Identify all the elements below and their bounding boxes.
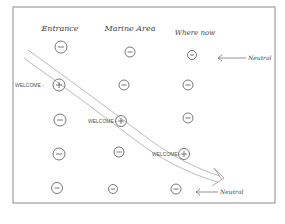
neutral-annotation-top: Neutral: [218, 54, 272, 61]
welcome-label-where-now: WELCOME -: [152, 151, 181, 157]
cell-r3-c0: [53, 148, 65, 160]
cell-r2-c0: [54, 114, 66, 126]
cell-r4-c2: [171, 184, 181, 194]
sketch-canvas: Entrance Marine Area Where now WELCOME -…: [0, 0, 285, 224]
cell-r4-c1: [109, 185, 118, 194]
frame-border: [13, 7, 275, 203]
cell-r3-c1: [114, 147, 124, 157]
cell-r1-c2: [183, 80, 193, 90]
neutral-annotation-bottom: Neutral: [196, 188, 244, 195]
cell-r1-c1: [119, 80, 129, 90]
cell-r0-c2: [188, 51, 197, 60]
column-header-where-now: Where now: [175, 29, 215, 37]
cell-r4-c0: [52, 183, 63, 194]
cell-r1-c0: [53, 79, 65, 91]
cell-grid: [52, 41, 197, 194]
welcome-label-entrance: WELCOME -: [15, 82, 44, 88]
column-header-entrance: Entrance: [40, 24, 78, 33]
cell-r0-c1: [125, 47, 135, 57]
welcome-label-marine-area: WELCOME -: [88, 118, 117, 124]
column-header-marine-area: Marine Area: [104, 24, 156, 33]
neutral-label-bottom: Neutral: [219, 188, 244, 195]
cell-r0-c0: [55, 41, 67, 53]
neutral-label-top: Neutral: [247, 54, 272, 61]
cell-r2-c2: [183, 113, 193, 123]
